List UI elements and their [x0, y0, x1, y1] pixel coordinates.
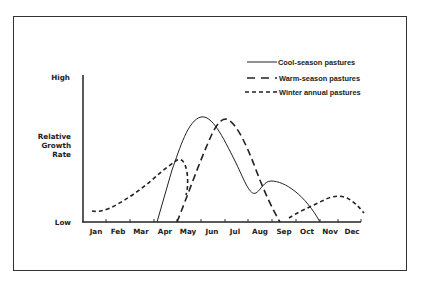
month-label: Jul	[229, 227, 240, 236]
month-label: Jan	[89, 227, 103, 236]
month-label: May	[180, 227, 197, 236]
legend-warm-season: Warm-season pastures	[279, 74, 360, 83]
x-tick-labels: Jan Feb Mar Apr May Jun Jul Aug Sep Oct …	[89, 227, 360, 236]
month-label: Mar	[133, 227, 149, 236]
month-label: Jun	[205, 227, 219, 236]
month-label: Oct	[300, 227, 314, 236]
y-axis-title-line1: Relative	[38, 132, 71, 141]
month-label: Nov	[322, 227, 338, 236]
y-high-label: High	[51, 73, 70, 82]
month-label: Feb	[111, 227, 126, 236]
y-axis-title-line3: Rate	[52, 150, 71, 159]
legend-winter-annual: Winter annual pastures	[279, 88, 361, 97]
legend: Cool-season pastures Warm-season pasture…	[245, 58, 361, 97]
month-label: Aug	[252, 227, 268, 236]
month-label: Apr	[158, 227, 173, 236]
month-label: Sep	[276, 227, 291, 236]
y-low-label: Low	[55, 218, 72, 227]
warm-season-line	[177, 119, 280, 222]
legend-cool-season: Cool-season pastures	[278, 58, 355, 67]
growth-chart: High Relative Growth Rate Low Jan Feb Ma…	[0, 0, 422, 286]
winter-annual-line-fall	[289, 196, 364, 218]
month-label: Dec	[344, 227, 359, 236]
y-axis-title-line2: Growth	[41, 141, 71, 150]
